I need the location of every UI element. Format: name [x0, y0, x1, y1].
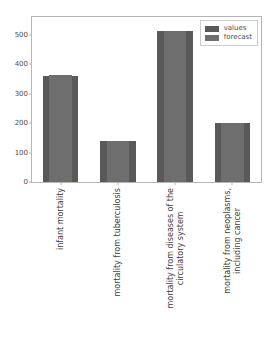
x-tick-label-line: mortality from tuberculosis	[113, 188, 123, 297]
chart-figure: 0100200300400500 infant mortalitymortali…	[0, 0, 269, 341]
bar-group	[43, 17, 78, 182]
legend-label-forecast: forecast	[224, 34, 252, 41]
x-tick-label: mortality from neoplasms,including cance…	[223, 188, 242, 294]
x-tick-label: mortality from tuberculosis	[113, 188, 123, 297]
x-tick-mark	[60, 182, 61, 185]
legend-label-values: values	[224, 25, 247, 32]
x-tick-mark	[117, 182, 118, 185]
legend-item-values: values	[205, 24, 252, 33]
bar-forecast	[221, 123, 244, 182]
x-tick-label-line: circulatory system	[175, 188, 185, 309]
y-tick-label: 300	[15, 90, 32, 97]
x-tick-label-line: mortality from neoplasms,	[223, 188, 233, 294]
bar-group	[100, 17, 135, 182]
y-tick-label: 400	[15, 61, 32, 68]
legend-swatch-forecast	[205, 35, 219, 41]
y-tick-label: 200	[15, 120, 32, 127]
x-tick-mark	[232, 182, 233, 185]
x-tick-label-line: infant mortality	[56, 188, 66, 250]
legend-swatch-values	[205, 26, 219, 32]
x-tick-label-line: mortality from diseases of the	[166, 188, 176, 309]
x-tick-mark	[175, 182, 176, 185]
legend-item-forecast: forecast	[205, 33, 252, 42]
x-tick-label: mortality from diseases of thecirculator…	[166, 188, 185, 309]
x-tick-label-line: including cancer	[232, 188, 242, 294]
bar-forecast	[49, 75, 72, 182]
y-tick-label: 500	[15, 31, 32, 38]
y-tick-label: 100	[15, 149, 32, 156]
bar-group	[157, 17, 192, 182]
y-tick-label: 0	[24, 179, 32, 186]
bar-forecast	[164, 31, 187, 182]
x-tick-label: infant mortality	[56, 188, 66, 250]
plot-area: 0100200300400500 infant mortalitymortali…	[31, 16, 262, 183]
legend: values forecast	[200, 20, 258, 46]
bar-forecast	[107, 141, 130, 182]
